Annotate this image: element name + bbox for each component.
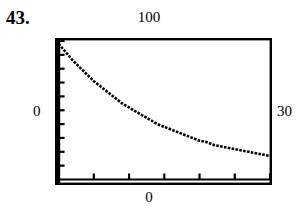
plot-screen: [55, 38, 272, 185]
x-max-label: 30: [277, 104, 292, 119]
calculator-graph-figure: 43. 100 0 30 0: [0, 0, 298, 215]
plot-svg: [55, 38, 272, 185]
y-min-label: 0: [33, 104, 41, 119]
x-min-label: 0: [0, 190, 298, 205]
y-max-label: 100: [0, 10, 298, 25]
plot-background: [55, 38, 272, 185]
